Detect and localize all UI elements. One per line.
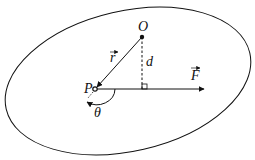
label-theta: θ	[94, 105, 101, 120]
label-f: F	[190, 68, 200, 83]
torque-diagram: O P r d F θ	[0, 0, 255, 160]
point-p	[93, 87, 97, 91]
position-vector-r	[97, 37, 142, 87]
label-d: d	[146, 54, 154, 69]
label-point: P	[83, 81, 93, 96]
body-outline	[0, 0, 255, 160]
origin-point	[140, 35, 144, 39]
label-origin: O	[138, 19, 148, 34]
right-angle-marker	[142, 84, 147, 89]
